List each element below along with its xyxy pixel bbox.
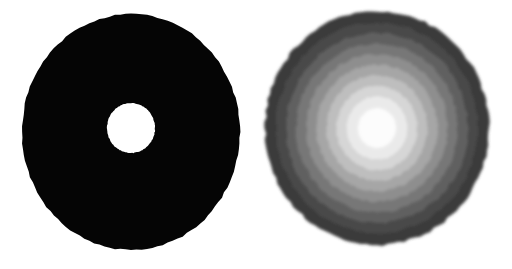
right-disc-band-group — [264, 11, 490, 245]
left-panel — [0, 0, 256, 269]
figure-root — [0, 0, 512, 269]
right-panel — [256, 0, 512, 269]
right-disc-canvas — [256, 0, 512, 269]
left-disc-canvas — [0, 0, 256, 269]
